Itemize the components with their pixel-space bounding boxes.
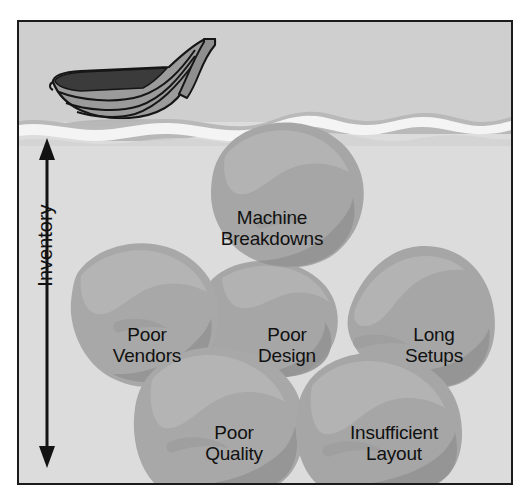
inventory-axis-label: Inventory (34, 186, 57, 306)
illustration-frame: Machine Breakdowns Poor Vendors Poor Des… (17, 20, 513, 485)
diagram-canvas: Machine Breakdowns Poor Vendors Poor Des… (0, 0, 530, 499)
sea-of-inventory-illustration (19, 22, 511, 483)
rock-machine-breakdowns (211, 123, 364, 268)
